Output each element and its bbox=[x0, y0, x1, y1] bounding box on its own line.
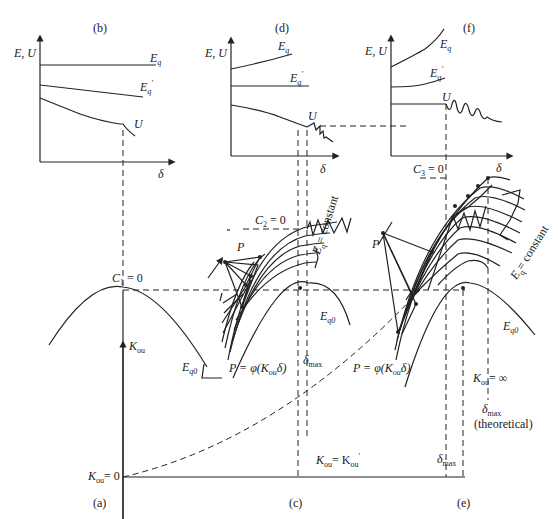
panel-d-u-label: U bbox=[308, 110, 317, 122]
kou-prime-label: Kou= Kou′ bbox=[316, 453, 360, 469]
p-phi-label-c: P = φ(Kouδ) bbox=[229, 362, 286, 377]
dmax-label-c: δmax bbox=[303, 354, 322, 369]
panel-e-label: (e) bbox=[457, 497, 470, 509]
panel-b-x-axis-label: δ bbox=[158, 168, 164, 180]
eq0-label-e: Eq0 bbox=[503, 320, 518, 335]
panel-f-y-axis-label: E, U bbox=[365, 45, 387, 57]
panel-d-y-axis-label: E, U bbox=[205, 47, 227, 59]
p-label-e: P bbox=[372, 238, 379, 250]
eq0-label-c: Eq0 bbox=[320, 310, 335, 325]
eq0-label-a: Eq0 bbox=[182, 361, 197, 376]
kou-axis-label: Kou bbox=[129, 340, 145, 355]
kou-zero-label: Kou= 0 bbox=[88, 470, 120, 485]
panel-b-y-axis-label: E, U bbox=[14, 47, 36, 59]
panel-b-eq-label: Eq bbox=[150, 52, 161, 67]
c1-label: C1 = 0 bbox=[112, 272, 143, 287]
panel-a-label: (a) bbox=[93, 497, 106, 509]
curve-eq0-a bbox=[49, 286, 207, 367]
panel-b-label: (b) bbox=[93, 22, 107, 34]
c2-label: C2 = 0 bbox=[255, 214, 286, 229]
kou-inf-label: Kou= ∞ bbox=[473, 372, 507, 387]
theoretical-label: (theoretical) bbox=[474, 418, 533, 430]
panel-d-axes bbox=[231, 40, 336, 156]
panel-f-x-axis-label: δ bbox=[496, 162, 502, 174]
panel-d-eqp-label: Eq′ bbox=[290, 71, 303, 87]
panel-c-label: (c) bbox=[289, 497, 302, 509]
panel-d-eq-label: Eq bbox=[278, 40, 289, 55]
panel-f-label: (f) bbox=[463, 22, 475, 34]
diagram-svg bbox=[0, 0, 558, 519]
c3-label: C3 = 0 bbox=[413, 163, 444, 178]
panel-b-u-label: U bbox=[134, 118, 143, 130]
panel-f-eq-label: Eq bbox=[440, 38, 451, 53]
panel-d-x-axis-label: δ bbox=[320, 163, 326, 175]
diagram-canvas: (b) E, U δ Eq Eq′ U (d) E, U δ Eq Eq′ U … bbox=[0, 0, 558, 519]
p-phi-label-e: P = φ(Kouδ) bbox=[353, 362, 410, 377]
panel-b-eqp-label: Eq′ bbox=[140, 80, 153, 96]
panel-f-u-label: U bbox=[442, 91, 451, 103]
panel-f-eqp-label: Eq′ bbox=[430, 66, 443, 82]
dmax-label-e: δmax bbox=[437, 453, 456, 468]
panel-d-label: (d) bbox=[275, 22, 289, 34]
p-label-c: P bbox=[237, 241, 244, 253]
